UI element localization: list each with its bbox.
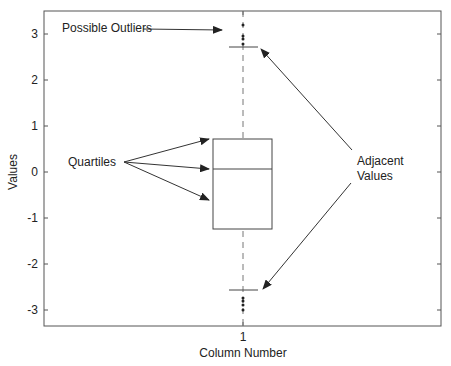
y-tick-labels: 3 2 1 0 -1 -2 -3 [27,27,38,317]
adjacent-values-annotation-line2: Values [357,169,393,183]
boxplot-chart: 3 2 1 0 -1 -2 -3 1 Column Number Values [0,0,451,366]
y-tick-label: -1 [27,211,38,225]
y-tick-label: 1 [31,119,38,133]
iqr-box [213,139,272,229]
y-tick-label: -3 [27,303,38,317]
x-axis-label: Column Number [199,346,286,360]
box-plot [213,11,272,326]
y-tick-label: 2 [31,73,38,87]
y-tick-label: -2 [27,257,38,271]
y-axis-label: Values [6,154,20,190]
x-tick-label: 1 [240,330,247,344]
quartiles-annotation: Quartiles [68,155,116,169]
possible-outliers-annotation: Possible Outliers [62,21,152,35]
y-tick-label: 3 [31,27,38,41]
y-tick-label: 0 [31,165,38,179]
adjacent-values-annotation-line1: Adjacent [357,154,404,168]
